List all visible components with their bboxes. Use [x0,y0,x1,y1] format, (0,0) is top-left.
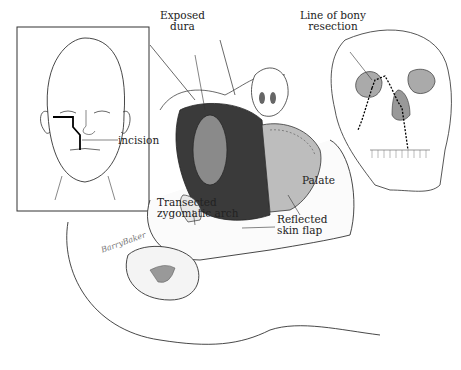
bony-resection-line2: resection [300,21,366,32]
bony-resection-label: Line of bony resection [300,10,366,32]
skin-flap-label: Reflected skin flap [277,214,327,236]
skull-diagram [331,30,451,191]
zygomatic-line2: zygomatic arch [157,208,238,219]
inset-face-panel [17,27,149,211]
skin-flap-line2: skin flap [277,225,327,236]
incision-label: incision [118,135,159,146]
surgical-illustration [0,0,461,370]
palate-label: Palate [302,175,335,186]
exposed-dura-label: Exposed dura [160,10,205,32]
exposed-dura-line2: dura [160,21,205,32]
zygomatic-arch-label: Transected zygomatic arch [157,197,238,219]
